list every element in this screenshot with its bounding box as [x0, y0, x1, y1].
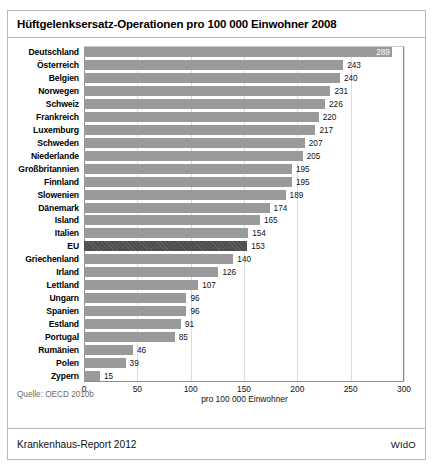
category-label-eu: EU: [8, 241, 84, 251]
bar-frankreich: [84, 112, 319, 122]
x-tick-50: 50: [133, 384, 142, 394]
bar-belgien: [84, 73, 340, 83]
category-label-slowenien: Slowenien: [8, 190, 84, 200]
bar-row: Polen39: [8, 356, 404, 369]
bar-row: Estland91: [8, 317, 404, 330]
bar-value-label: 39: [130, 358, 139, 367]
bar-track: 107: [84, 279, 404, 292]
bar-schweiz: [84, 99, 325, 109]
category-label-gro-britannien: Großbritannien: [8, 164, 84, 174]
category-label-schweden: Schweden: [8, 138, 84, 148]
bar-row: Lettland107: [8, 279, 404, 292]
x-tick-250: 250: [344, 384, 358, 394]
category-label-d-nemark: Dänemark: [8, 203, 84, 213]
x-axis-title: pro 100 000 Einwohner: [84, 394, 405, 404]
category-label-finnland: Finnland: [8, 177, 84, 187]
bar-value-label: 217: [319, 125, 333, 134]
bar-value-label: 96: [190, 293, 199, 302]
bar-row: Irland126: [8, 266, 404, 279]
bar-track: 195: [84, 175, 404, 188]
bar-value-label: 205: [307, 151, 321, 160]
category-label-luxemburg: Luxemburg: [8, 125, 84, 135]
category-label-lettland: Lettland: [8, 280, 84, 290]
bar-portugal: [84, 332, 175, 342]
bar-track: 220: [84, 111, 404, 124]
bar-value-label: 189: [290, 190, 304, 199]
bar-value-label: 231: [334, 87, 348, 96]
bar-row: Italien154: [8, 227, 404, 240]
bar-value-label: 140: [237, 255, 251, 264]
bar-track: 46: [84, 343, 404, 356]
bar-value-label: 195: [296, 177, 310, 186]
category-label-polen: Polen: [8, 358, 84, 368]
x-tick-150: 150: [237, 384, 251, 394]
bar-row: EU153: [8, 240, 404, 253]
category-label-italien: Italien: [8, 228, 84, 238]
bar-row: Deutschland289: [8, 46, 404, 59]
bar-track: 189: [84, 188, 404, 201]
bar-value-label: 91: [185, 319, 194, 328]
category-label--sterreich: Österreich: [8, 60, 84, 70]
bar-row: Spanien96: [8, 304, 404, 317]
bar-track: 15: [84, 369, 404, 382]
bar-track: 96: [84, 304, 404, 317]
gridline-300: [404, 47, 405, 381]
bar-track: 289: [84, 46, 404, 59]
bar-value-label: 107: [202, 281, 216, 290]
bar-value-label: 126: [222, 268, 236, 277]
bar-row: Island165: [8, 214, 404, 227]
report-title: Krankenhaus-Report 2012: [17, 439, 137, 450]
category-label-zypern: Zypern: [8, 371, 84, 381]
bar-polen: [84, 358, 126, 368]
page-title: Hüftgelenksersatz-Operationen pro 100 00…: [17, 18, 336, 30]
figure-panel: Hüftgelenksersatz-Operationen pro 100 00…: [7, 10, 426, 460]
bar-track: 231: [84, 85, 404, 98]
bar-luxemburg: [84, 125, 315, 135]
category-label-estland: Estland: [8, 319, 84, 329]
bar-track: 165: [84, 214, 404, 227]
x-tick-300: 300: [397, 384, 411, 394]
bar-value-label: 96: [190, 306, 199, 315]
bar-niederlande: [84, 151, 303, 161]
bar-slowenien: [84, 190, 286, 200]
bar-spanien: [84, 306, 186, 316]
bar-value-label: 85: [179, 332, 188, 341]
category-label-griechenland: Griechenland: [8, 254, 84, 264]
bar-row: Belgien240: [8, 72, 404, 85]
bar-row: Schweiz226: [8, 98, 404, 111]
bar-track: 96: [84, 292, 404, 305]
bar-track: 91: [84, 317, 404, 330]
source-note: Quelle: OECD 2010b: [17, 390, 94, 399]
chart-area: Deutschland289Österreich243Belgien240Nor…: [8, 38, 425, 405]
category-label-schweiz: Schweiz: [8, 99, 84, 109]
bar-track: 240: [84, 72, 404, 85]
bar-value-label: 46: [137, 345, 146, 354]
x-tick-100: 100: [184, 384, 198, 394]
bar-rows: Deutschland289Österreich243Belgien240Nor…: [8, 46, 404, 382]
bar-track: 154: [84, 227, 404, 240]
bar-griechenland: [84, 254, 233, 264]
bar-value-label: 220: [323, 113, 337, 122]
bar-row: Dänemark174: [8, 201, 404, 214]
bar-rum-nien: [84, 345, 133, 355]
bar-irland: [84, 267, 218, 277]
bar--sterreich: [84, 60, 343, 70]
bar-row: Niederlande205: [8, 149, 404, 162]
bar-value-label: 195: [296, 164, 310, 173]
bar-row: Ungarn96: [8, 292, 404, 305]
bar-row: Portugal85: [8, 330, 404, 343]
figure-footer: Krankenhaus-Report 2012 WIdO: [8, 428, 425, 459]
category-label-ungarn: Ungarn: [8, 293, 84, 303]
bar-estland: [84, 319, 181, 329]
bar-lettland: [84, 280, 198, 290]
bar-value-label: 15: [104, 371, 113, 380]
bar-row: Großbritannien195: [8, 162, 404, 175]
category-label-irland: Irland: [8, 267, 84, 277]
bar-value-label: 289: [376, 48, 390, 57]
bar-track: 153: [84, 240, 404, 253]
bar-track: 174: [84, 201, 404, 214]
figure-title-bar: Hüftgelenksersatz-Operationen pro 100 00…: [8, 11, 425, 38]
bar-row: Finnland195: [8, 175, 404, 188]
bar-eu: [84, 241, 247, 251]
bar-track: 217: [84, 124, 404, 137]
